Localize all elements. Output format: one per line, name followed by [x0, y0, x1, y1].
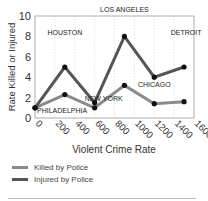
- data-point: [62, 92, 67, 97]
- legend-label-injured: Injured by Police: [34, 175, 93, 184]
- city-label: LOS ANGELES: [100, 6, 149, 13]
- x-tick-label: 800: [113, 118, 132, 137]
- x-tick-label: 1200: [153, 118, 176, 141]
- x-tick-label: 1400: [173, 118, 196, 141]
- x-tick-label: 1000: [133, 118, 156, 141]
- y-tick-label: 0: [25, 112, 31, 124]
- x-tick-label: 400: [73, 118, 92, 137]
- killed-swatch: [12, 166, 28, 169]
- y-tick-label: 10: [19, 10, 31, 22]
- data-point: [152, 101, 157, 106]
- line-chart: 024681002004006008001000120014001600Viol…: [0, 0, 208, 160]
- data-point: [181, 99, 186, 104]
- x-tick-label: 600: [93, 118, 112, 137]
- data-point: [181, 64, 186, 69]
- data-point: [92, 105, 97, 110]
- city-label: PHILADELPHIA: [37, 107, 88, 114]
- data-point: [62, 64, 67, 69]
- y-axis-title: Rate Killed or Injured: [6, 23, 17, 112]
- city-label: NEW YORK: [85, 95, 123, 102]
- y-tick-label: 2: [25, 92, 31, 104]
- data-point: [122, 34, 127, 39]
- city-label: CHICAGO: [138, 81, 171, 88]
- legend: Killed by Police Injured by Police: [12, 161, 93, 185]
- bottom-divider: [8, 198, 196, 199]
- legend-item-killed: Killed by Police: [12, 161, 93, 173]
- y-tick-label: 8: [25, 30, 31, 42]
- city-label: DETROIT: [171, 29, 202, 36]
- legend-item-injured: Injured by Police: [12, 173, 93, 185]
- x-tick-label: 1600: [193, 118, 208, 141]
- x-axis-title: Violent Crime Rate: [72, 144, 156, 155]
- y-tick-label: 6: [25, 51, 31, 63]
- injured-swatch: [12, 178, 28, 181]
- legend-label-killed: Killed by Police: [34, 163, 88, 172]
- x-tick-label: 200: [53, 118, 72, 137]
- x-tick-label: 0: [34, 118, 46, 130]
- city-label: HOUSTON: [47, 29, 82, 36]
- data-point: [122, 83, 127, 88]
- data-point: [152, 75, 157, 80]
- y-tick-label: 4: [25, 71, 31, 83]
